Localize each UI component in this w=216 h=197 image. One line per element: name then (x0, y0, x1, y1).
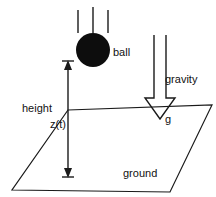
gravity-label: gravity (165, 73, 198, 85)
motion-lines-group (78, 7, 108, 33)
height-label: height (22, 102, 52, 114)
ball-label: ball (113, 46, 130, 58)
diagram-svg: ball gravity g height z(t) ground (0, 0, 216, 197)
z-of-t-label: z(t) (50, 118, 66, 130)
ground-label: ground (123, 167, 157, 179)
ball-icon (76, 33, 110, 67)
ground-plane (12, 105, 212, 192)
physics-diagram-canvas: ball gravity g height z(t) ground (0, 0, 216, 197)
g-label: g (165, 113, 171, 125)
